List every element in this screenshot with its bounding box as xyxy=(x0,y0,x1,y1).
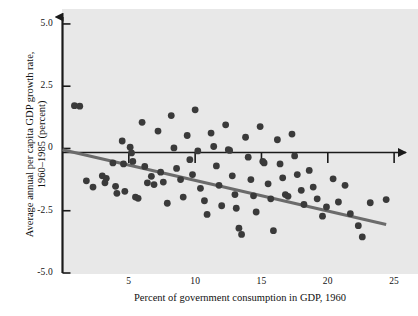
scatter-point xyxy=(112,183,119,190)
scatter-point xyxy=(103,175,110,182)
scatter-point xyxy=(76,103,83,110)
scatter-point xyxy=(238,231,245,238)
scatter-point xyxy=(90,184,97,191)
scatter-point xyxy=(218,202,225,209)
scatter-point xyxy=(83,177,90,184)
scatter-point xyxy=(383,196,390,203)
scatter-point xyxy=(177,176,184,183)
scatter-point xyxy=(155,128,162,135)
scatter-point xyxy=(335,199,342,206)
scatter-point xyxy=(257,123,264,130)
scatter-point xyxy=(201,197,208,204)
scatter-point xyxy=(141,163,148,170)
scatter-point xyxy=(222,121,229,128)
scatter-point xyxy=(164,200,171,207)
axes xyxy=(63,17,407,273)
y-axis-title: Average annual per capita GDP growth rat… xyxy=(24,13,49,275)
scatter-point xyxy=(294,171,301,178)
scatter-point xyxy=(359,233,366,240)
y-axis-title-line-2: 1960–1985 (percent) xyxy=(36,13,48,275)
scatter-point xyxy=(127,144,134,151)
scatter-point xyxy=(242,134,249,141)
scatter-point xyxy=(216,182,223,189)
scatter-point xyxy=(204,211,211,218)
scatter-point xyxy=(261,160,268,167)
y-axis-title-line-1: Average annual per capita GDP growth rat… xyxy=(24,13,36,275)
scatter-point xyxy=(314,195,321,202)
scatter-point xyxy=(367,199,374,206)
scatter-point xyxy=(330,175,337,182)
scatter-point xyxy=(210,143,217,150)
scatter-point xyxy=(208,130,215,137)
scatter-point xyxy=(184,132,191,139)
x-tick-label: 25 xyxy=(389,276,399,286)
x-tick-label: 10 xyxy=(190,276,200,286)
scatter-point xyxy=(298,187,305,194)
scatter-point xyxy=(226,147,233,154)
scatter-point xyxy=(355,222,362,229)
scatter-point xyxy=(129,158,136,165)
scatter-point xyxy=(267,195,274,202)
scatter-point xyxy=(236,225,243,232)
scatter-point xyxy=(148,173,155,180)
scatter-point xyxy=(189,171,196,178)
scatter-point xyxy=(265,180,272,187)
x-axis-tick-labels: 510152025 xyxy=(0,276,418,292)
scatter-point xyxy=(128,150,135,157)
scatter-point xyxy=(173,165,180,172)
scatter-point xyxy=(157,169,164,176)
scatter-point xyxy=(247,176,254,183)
scatter-point xyxy=(301,201,308,208)
scatter-point xyxy=(253,209,260,216)
scatter-point xyxy=(319,213,326,220)
x-tick-label: 15 xyxy=(257,276,267,286)
scatter-point xyxy=(250,192,257,199)
scatter-point xyxy=(291,153,298,160)
scatter-point xyxy=(194,148,201,155)
scatter-point xyxy=(285,193,292,200)
scatter-plot-figure: 5.02.50-2.5-5.0 510152025 Percent of gov… xyxy=(0,0,418,316)
scatter-point xyxy=(113,190,120,197)
scatter-point xyxy=(121,188,128,195)
scatter-point xyxy=(342,182,349,189)
x-tick-label: 5 xyxy=(126,276,131,286)
plot-canvas xyxy=(0,0,418,316)
scatter-point xyxy=(110,160,117,167)
scatter-point xyxy=(135,195,142,202)
scatter-point xyxy=(233,205,240,212)
scatter-point xyxy=(120,161,127,168)
scatter-point xyxy=(232,191,239,198)
scatter-point xyxy=(310,184,317,191)
scatter-point xyxy=(289,131,296,138)
scatter-point xyxy=(119,138,126,145)
scatter-point xyxy=(168,112,175,119)
data-points xyxy=(71,102,390,240)
scatter-point xyxy=(197,185,204,192)
x-axis-title: Percent of government consumption in GDP… xyxy=(62,292,418,303)
scatter-point xyxy=(323,204,330,211)
scatter-point xyxy=(180,194,187,201)
scatter-point xyxy=(160,179,167,186)
x-tick-label: 20 xyxy=(323,276,333,286)
scatter-point xyxy=(270,227,277,234)
scatter-point xyxy=(347,210,354,217)
scatter-point xyxy=(306,167,313,174)
scatter-point xyxy=(151,181,158,188)
scatter-point xyxy=(171,145,178,152)
scatter-point xyxy=(245,154,252,161)
scatter-point xyxy=(277,161,284,168)
scatter-point xyxy=(229,172,236,179)
scatter-point xyxy=(213,163,220,170)
scatter-point xyxy=(144,179,151,186)
scatter-point xyxy=(274,136,281,143)
scatter-point xyxy=(192,106,199,113)
scatter-point xyxy=(186,156,193,163)
scatter-point xyxy=(279,174,286,181)
scatter-point xyxy=(139,119,146,126)
